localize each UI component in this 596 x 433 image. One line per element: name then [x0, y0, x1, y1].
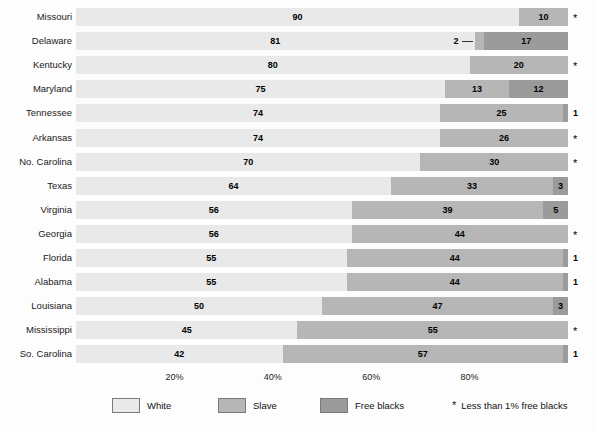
chart-row: Florida55441	[76, 249, 568, 267]
row-label: Alabama	[0, 273, 72, 291]
segment-value-free: 17	[521, 36, 531, 46]
segment-value-white: 55	[206, 277, 216, 287]
stacked-bar: 7426*	[76, 129, 568, 147]
x-axis-tick: 40%	[264, 372, 282, 382]
stacked-bar: 55441	[76, 249, 568, 267]
bar-segment-white: 64	[76, 177, 391, 195]
x-axis: 20%40%60%80%	[76, 372, 568, 386]
segment-value-free: 5	[553, 205, 558, 215]
segment-value-white: 42	[174, 349, 184, 359]
segment-value-white: 56	[209, 205, 219, 215]
segment-value-slave: 55	[428, 325, 438, 335]
row-label: Virginia	[0, 201, 72, 219]
row-label: Mississippi	[0, 321, 72, 339]
segment-value-white: 90	[292, 12, 302, 22]
bar-segment-white: 50	[76, 297, 322, 315]
bar-segment-slave: 39	[352, 201, 544, 219]
segment-value-slave: 33	[467, 181, 477, 191]
stacked-bar: 81217	[76, 32, 568, 50]
chart-row: Louisiana50473	[76, 297, 568, 315]
legend-item-slave: Slave	[218, 398, 277, 413]
x-axis-tick: 60%	[362, 372, 380, 382]
row-label: Maryland	[0, 80, 72, 98]
bar-segment-white: 74	[76, 104, 440, 122]
callout-value: 2	[454, 36, 459, 46]
row-asterisk-icon: *	[573, 56, 577, 74]
segment-value-free: 3	[558, 301, 563, 311]
segment-value-slave: 26	[499, 133, 509, 143]
row-end-value: 1	[573, 104, 578, 122]
row-asterisk-icon: *	[573, 8, 577, 26]
bar-segment-slave: 44	[347, 273, 563, 291]
row-label: Texas	[0, 177, 72, 195]
segment-value-slave: 30	[489, 157, 499, 167]
stacked-bar: 5644*	[76, 225, 568, 243]
bar-segment-slave: 25	[440, 104, 563, 122]
callout-leader-line	[462, 41, 473, 42]
row-label: Kentucky	[0, 56, 72, 74]
chart-row: Virginia56395	[76, 201, 568, 219]
stacked-bar: 50473	[76, 297, 568, 315]
row-asterisk-icon: *	[573, 129, 577, 147]
bar-segment-slave: 30	[420, 153, 568, 171]
bar-segment-slave: 2	[475, 32, 485, 50]
bar-segment-free: 5	[543, 201, 568, 219]
bar-segment-white: 45	[76, 321, 297, 339]
bar-segment-slave: 44	[347, 249, 563, 267]
bar-segment-slave: 57	[283, 345, 563, 363]
legend-swatch-slave	[218, 398, 246, 413]
stacked-bar: 42571	[76, 345, 568, 363]
row-label: So. Carolina	[0, 345, 72, 363]
segment-value-free: 12	[533, 84, 543, 94]
chart-row: Alabama55441	[76, 273, 568, 291]
segment-callout-slave: 2	[454, 36, 475, 46]
stacked-bar: 56395	[76, 201, 568, 219]
bar-segment-white: 55	[76, 273, 347, 291]
bar-segment-free: 3	[553, 177, 568, 195]
chart-row: Maryland751312	[76, 80, 568, 98]
segment-value-white: 70	[243, 157, 253, 167]
bar-segment-slave: 20	[470, 56, 568, 74]
legend-footnote: * Less than 1% free blacks	[452, 400, 567, 411]
bar-segment-slave: 10	[519, 8, 568, 26]
bar-segment-white: 80	[76, 56, 470, 74]
row-label: Louisiana	[0, 297, 72, 315]
stacked-bar: 7030*	[76, 153, 568, 171]
segment-value-white: 55	[206, 253, 216, 263]
row-asterisk-icon: *	[573, 225, 577, 243]
segment-value-white: 74	[253, 108, 263, 118]
chart-row: Georgia5644*	[76, 225, 568, 243]
row-label: Tennessee	[0, 104, 72, 122]
stacked-bar: 8020*	[76, 56, 568, 74]
bar-segment-slave: 55	[297, 321, 568, 339]
stacked-bar: 751312	[76, 80, 568, 98]
row-label: Florida	[0, 249, 72, 267]
chart-row: Delaware81217	[76, 32, 568, 50]
legend-item-free-blacks: Free blacks	[320, 398, 404, 413]
row-asterisk-icon: *	[573, 321, 577, 339]
row-asterisk-icon: *	[573, 153, 577, 171]
segment-value-white: 50	[194, 301, 204, 311]
bar-segment-white: 42	[76, 345, 283, 363]
stacked-bar: 64333	[76, 177, 568, 195]
legend-label-free-blacks: Free blacks	[355, 400, 404, 411]
chart-legend: White Slave Free blacks * Less than 1% f…	[0, 393, 596, 417]
row-label: No. Carolina	[0, 153, 72, 171]
x-axis-tick: 20%	[165, 372, 183, 382]
segment-value-white: 75	[255, 84, 265, 94]
stacked-bar: 9010*	[76, 8, 568, 26]
bar-segment-slave: 26	[440, 129, 568, 147]
segment-value-slave: 57	[418, 349, 428, 359]
segment-value-slave: 44	[455, 229, 465, 239]
asterisk-icon: *	[452, 400, 456, 410]
x-axis-tick: 80%	[461, 372, 479, 382]
bar-segment-white: 74	[76, 129, 440, 147]
row-label: Arkansas	[0, 129, 72, 147]
segment-value-white: 81	[270, 36, 280, 46]
chart-row: Kentucky8020*	[76, 56, 568, 74]
row-end-value: 1	[573, 249, 578, 267]
row-label: Missouri	[0, 8, 72, 26]
segment-value-white: 80	[268, 60, 278, 70]
chart-row: Texas64333	[76, 177, 568, 195]
chart-row: Mississippi4555*	[76, 321, 568, 339]
